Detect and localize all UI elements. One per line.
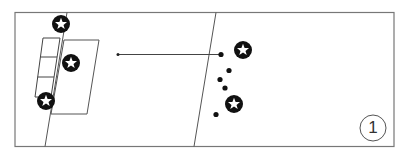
star-icon <box>62 54 80 72</box>
dot-icon <box>222 85 227 90</box>
dot-icon <box>213 112 218 117</box>
dot-icon <box>218 52 223 57</box>
goal-net <box>35 38 60 97</box>
star-icon <box>225 95 243 113</box>
arrow-icon <box>117 53 222 56</box>
star-icon <box>234 41 252 59</box>
star-icon <box>37 92 55 110</box>
dot-icon <box>226 68 231 73</box>
middle-diagonal-line <box>194 13 216 147</box>
dot-icon <box>217 77 222 82</box>
drill-diagram <box>0 0 408 158</box>
star-icon <box>52 15 70 33</box>
figure-number: 1 <box>360 115 386 141</box>
